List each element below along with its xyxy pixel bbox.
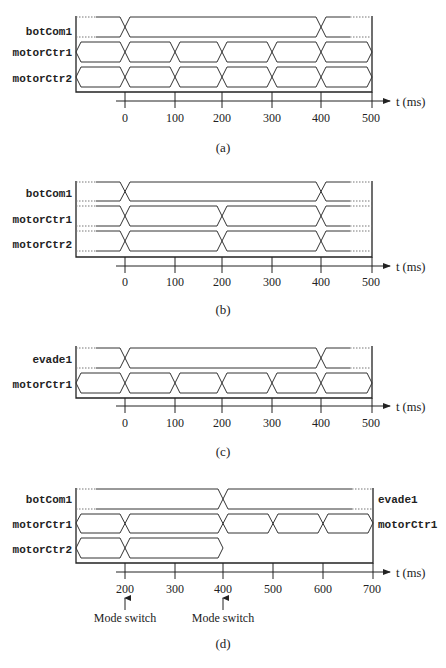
tick-label: 400 [214, 582, 232, 596]
signal-label-botcom1: botCom1 [26, 494, 73, 506]
caption-b: (b) [215, 302, 230, 317]
axis-label: t (ms) [396, 260, 426, 274]
diagram-c-frame [76, 346, 372, 398]
tick-label: 700 [363, 582, 381, 596]
signal-label-motorctr1: motorCtr1 [13, 214, 73, 226]
tick-label: 400 [312, 275, 330, 289]
axis-ticks [125, 257, 372, 273]
diagram-d: botCom1 evade1 motorCtr1 motorCtr1 motor… [13, 488, 438, 651]
tick-label: 100 [166, 111, 184, 125]
signal-label-motorctr1-right: motorCtr1 [378, 519, 438, 531]
tick-label: 600 [314, 582, 332, 596]
axis-ticks [125, 563, 373, 579]
tick-label: 500 [362, 416, 380, 430]
signal-label-evade1-right: evade1 [378, 494, 418, 506]
signal-label-motorctr1: motorCtr1 [13, 379, 73, 391]
diagram-a: botCom1 motorCtr1 motorCtr2 0 100 200 30… [13, 16, 426, 155]
diagram-c: evade1 motorCtr1 0 100 200 300 400 500 t… [13, 346, 426, 459]
annotation-mode-switch: Mode switch [94, 611, 156, 625]
tick-label: 200 [213, 416, 231, 430]
caption-c: (c) [216, 444, 230, 459]
tick-label: 100 [166, 416, 184, 430]
tick-label: 100 [166, 275, 184, 289]
signal-label-evade1: evade1 [32, 354, 72, 366]
tick-label: 400 [312, 111, 330, 125]
tick-label: 200 [213, 275, 231, 289]
tick-label: 300 [263, 416, 281, 430]
tick-label: 500 [362, 111, 380, 125]
tick-label: 400 [312, 416, 330, 430]
diagram-b: botCom1 motorCtr1 motorCtr2 [13, 181, 426, 317]
signal-label-botcom1: botCom1 [26, 26, 73, 38]
timing-diagram-figure: botCom1 motorCtr1 motorCtr2 0 100 200 30… [0, 0, 446, 668]
tick-label: 200 [213, 111, 231, 125]
signal-label-motorctr1: motorCtr1 [13, 47, 73, 59]
tick-label: 200 [116, 582, 134, 596]
signal-motorctr1-wave [76, 42, 372, 62]
tick-label: 500 [264, 582, 282, 596]
axis-label: t (ms) [396, 400, 426, 414]
signal-botcom1-wave [76, 17, 372, 37]
annotation-mode-switch: Mode switch [192, 611, 254, 625]
signal-label-motorctr2: motorCtr2 [13, 73, 72, 85]
signal-label-motorctr2: motorCtr2 [13, 544, 72, 556]
tick-label: 300 [263, 111, 281, 125]
signal-motorctr2-wave [76, 67, 372, 87]
signal-motorctr2-wave [76, 231, 372, 251]
signal-botcom1-evade1-wave [76, 489, 373, 509]
tick-label: 0 [122, 416, 128, 430]
tick-label: 300 [166, 582, 184, 596]
signal-motorctr1-wave [76, 514, 373, 533]
signal-motorctr1-wave [76, 373, 372, 393]
axis-ticks [125, 92, 372, 108]
signal-label-motorctr1: motorCtr1 [13, 519, 73, 531]
tick-label: 0 [122, 275, 128, 289]
caption-a: (a) [216, 140, 230, 155]
axis-label: t (ms) [396, 95, 426, 109]
signal-evade1-wave [76, 348, 372, 368]
signal-label-botcom1: botCom1 [26, 188, 73, 200]
tick-label: 0 [122, 111, 128, 125]
axis-label: t (ms) [396, 566, 426, 580]
tick-label: 500 [362, 275, 380, 289]
caption-d: (d) [215, 636, 230, 651]
tick-label: 300 [263, 275, 281, 289]
signal-motorctr1-wave [76, 206, 372, 226]
signal-motorctr2-wave [76, 538, 223, 558]
signal-label-motorctr2: motorCtr2 [13, 239, 72, 251]
signal-botcom1-wave [76, 182, 372, 201]
